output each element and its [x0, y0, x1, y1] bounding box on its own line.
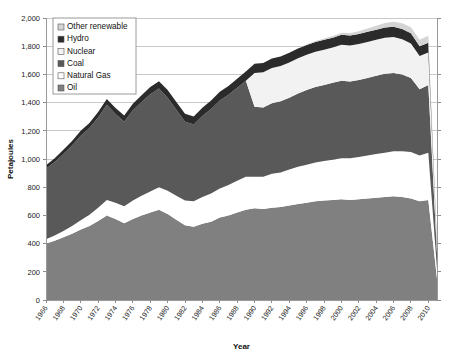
x-axis-tick-label: 1978 — [137, 304, 154, 322]
x-axis-tick-label: 2002 — [346, 304, 363, 322]
y-axis-tick-label: 1,000 — [21, 155, 40, 164]
y-axis-tick-label: 1,600 — [21, 70, 40, 79]
chart-legend: Other renewableHydroNuclearCoalNatural G… — [53, 18, 136, 94]
x-axis-tick-label: 1976 — [120, 304, 137, 322]
x-axis-tick-label: 2008 — [398, 304, 415, 322]
legend-label-coal: Coal — [67, 59, 84, 68]
legend-swatch-nuclear — [58, 48, 64, 54]
legend-swatch-oil — [58, 85, 64, 91]
legend-label-natural-gas: Natural Gas — [67, 71, 111, 80]
x-axis-tick-label: 2010 — [415, 304, 432, 322]
x-axis-tick-label: 1968 — [50, 304, 67, 322]
legend-label-nuclear: Nuclear — [67, 47, 95, 56]
legend-swatch-coal — [58, 61, 64, 67]
chart-canvas: 02004006008001,0001,2001,4001,6001,8002,… — [0, 0, 454, 355]
y-axis-tick-label: 200 — [27, 268, 40, 277]
legend-label-hydro: Hydro — [67, 34, 89, 43]
y-axis-tick-label: 2,000 — [21, 14, 40, 23]
legend-swatch-natural-gas — [58, 73, 64, 79]
x-axis-tick-label: 1992 — [259, 304, 276, 322]
y-axis-tick-label: 1,400 — [21, 98, 40, 107]
x-axis-tick-label: 1996 — [294, 304, 311, 322]
x-axis-tick-label: 2004 — [363, 304, 380, 322]
y-axis-tick-label: 1,200 — [21, 127, 40, 136]
y-axis-tick-label: 600 — [27, 211, 40, 220]
x-axis-tick-label: 1988 — [224, 304, 241, 322]
x-axis-tick-label: 2000 — [329, 304, 346, 322]
y-axis-title: Petajoules — [6, 138, 15, 179]
x-axis-tick-label: 1966 — [33, 304, 50, 322]
x-axis-tick-label: 1990 — [242, 304, 259, 322]
y-axis-tick-label: 400 — [27, 239, 40, 248]
x-axis-tick-label: 1974 — [103, 304, 120, 322]
x-axis-tick-label: 1986 — [207, 304, 224, 322]
stacked-area-chart: 02004006008001,0001,2001,4001,6001,8002,… — [0, 0, 454, 355]
legend-label-oil: Oil — [67, 83, 77, 92]
legend-label-other-renewable: Other renewable — [67, 22, 128, 31]
x-axis-tick-label: 1970 — [68, 304, 85, 322]
x-axis-tick-label: 2006 — [381, 304, 398, 322]
y-axis-tick-label: 0 — [36, 296, 40, 305]
legend-swatch-hydro — [58, 36, 64, 42]
x-axis-tick-label: 1984 — [189, 304, 206, 322]
x-axis-tick-label: 1994 — [276, 304, 293, 322]
x-axis-tick-label: 1998 — [311, 304, 328, 322]
legend-swatch-other-renewable — [58, 24, 64, 30]
y-axis-tick-label: 1,800 — [21, 42, 40, 51]
y-axis-tick-label: 800 — [27, 183, 40, 192]
x-axis-tick-label: 1980 — [155, 304, 172, 322]
x-axis-tick-label: 1982 — [172, 304, 189, 322]
x-axis-title: Year — [233, 342, 250, 351]
x-axis-tick-label: 1972 — [85, 304, 102, 322]
